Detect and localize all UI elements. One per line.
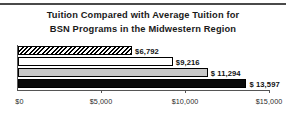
chart-title-line-2: BSN Programs in the Midwestern Region [0, 23, 286, 36]
x-axis-tick [185, 90, 186, 93]
top-divider-rule [0, 3, 286, 5]
bar-value-label-2: $9,216 [176, 57, 200, 66]
x-axis-tick-label: $10,000 [172, 97, 199, 106]
chart-title-line-1: Tuition Compared with Average Tuition fo… [0, 9, 286, 22]
x-axis-tick-label: $0 [15, 97, 23, 106]
x-axis-tick-label: $15,000 [256, 97, 283, 106]
bar-series-4 [18, 79, 246, 88]
bar-series-1 [18, 46, 132, 55]
bar-value-label-3: $ 11,294 [211, 68, 241, 77]
x-axis-tick [269, 90, 270, 93]
plot-area: $6,792 $9,216 $ 11,294 $ 13,597 $0$5,000… [17, 45, 269, 90]
x-axis-tick [101, 90, 102, 93]
bar-value-label-1: $6,792 [135, 46, 159, 55]
chart-figure: Tuition Compared with Average Tuition fo… [0, 0, 286, 114]
x-axis-line [17, 90, 269, 91]
bar-series-2 [18, 57, 173, 66]
x-axis-tick-label: $5,000 [90, 97, 113, 106]
chart-title: Tuition Compared with Average Tuition fo… [0, 9, 286, 36]
bar-series-3 [18, 68, 208, 77]
bar-value-label-4: $ 13,597 [249, 79, 279, 88]
